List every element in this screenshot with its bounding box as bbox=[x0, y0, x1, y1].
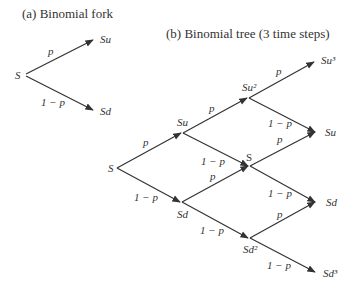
label-su2-down: 1 − p bbox=[268, 117, 292, 129]
label-root-down: 1 − p bbox=[134, 191, 158, 203]
edge-su-up bbox=[183, 98, 247, 133]
tree-su-right-node: Su bbox=[325, 126, 337, 138]
fork-up-prob: p bbox=[47, 45, 54, 57]
label-sd2-up: p bbox=[276, 208, 283, 220]
fork-down-prob: 1 − p bbox=[41, 96, 65, 108]
binomial-fork: (a) Binomial fork S Su Sd p 1 − p bbox=[15, 6, 113, 117]
label-smid-down: 1 − p bbox=[268, 187, 292, 199]
fork-down-node: Sd bbox=[100, 105, 112, 117]
fork-title: (a) Binomial fork bbox=[22, 6, 113, 21]
binomial-diagram: (a) Binomial fork S Su Sd p 1 − p (b) Bi… bbox=[0, 0, 354, 290]
tree-su2-node: Su² bbox=[242, 81, 257, 93]
edge-su2-up bbox=[249, 62, 314, 98]
fork-root-node: S bbox=[15, 69, 21, 81]
label-su-down: 1 − p bbox=[201, 155, 225, 167]
tree-title: (b) Binomial tree (3 time steps) bbox=[166, 26, 330, 41]
label-smid-up: p bbox=[276, 133, 283, 145]
label-sd2-down: 1 − p bbox=[267, 259, 291, 271]
tree-su3-node: Su³ bbox=[321, 54, 336, 66]
tree-su-node: Su bbox=[177, 116, 189, 128]
tree-smid-node: S bbox=[246, 151, 252, 163]
fork-up-node: Su bbox=[100, 33, 112, 45]
tree-sd-right-node: Sd bbox=[326, 196, 338, 208]
label-sd-down: 1 − p bbox=[200, 224, 224, 236]
tree-sd2-node: Sd² bbox=[243, 243, 258, 255]
binomial-tree: (b) Binomial tree (3 time steps) S Su Sd… bbox=[108, 26, 338, 279]
edge-root-up bbox=[117, 133, 181, 168]
label-sd-up: p bbox=[209, 170, 216, 182]
label-su2-up: p bbox=[275, 65, 282, 77]
tree-sd3-node: Sd³ bbox=[323, 267, 338, 279]
tree-root-node: S bbox=[108, 162, 114, 174]
fork-up-edge bbox=[26, 40, 93, 74]
edge-smid-up bbox=[250, 132, 315, 166]
label-root-up: p bbox=[142, 136, 149, 148]
tree-sd-node: Sd bbox=[177, 208, 189, 220]
edge-sd2-up bbox=[250, 202, 315, 238]
label-su-up: p bbox=[208, 102, 215, 114]
